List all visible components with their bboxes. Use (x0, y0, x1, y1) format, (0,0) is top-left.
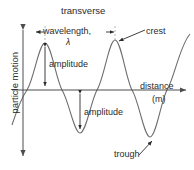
amplitude-lower-label: amplitude (84, 108, 123, 117)
particle-motion-axis-label: particle motion (10, 46, 20, 120)
wavelength-label: wavelength, (43, 27, 91, 36)
distance-axis-unit-label: (m) (152, 95, 166, 104)
trough-label: trough (114, 150, 140, 159)
trough-leader-arrow (139, 141, 152, 155)
lambda-symbol-label: λ (66, 38, 70, 47)
distance-axis-label: distance (140, 82, 174, 91)
amplitude-upper-label: amplitude (49, 60, 88, 69)
diagram-title: transverse (61, 6, 105, 16)
crest-label: crest (146, 27, 166, 36)
crest-leader-arrow (119, 30, 145, 41)
